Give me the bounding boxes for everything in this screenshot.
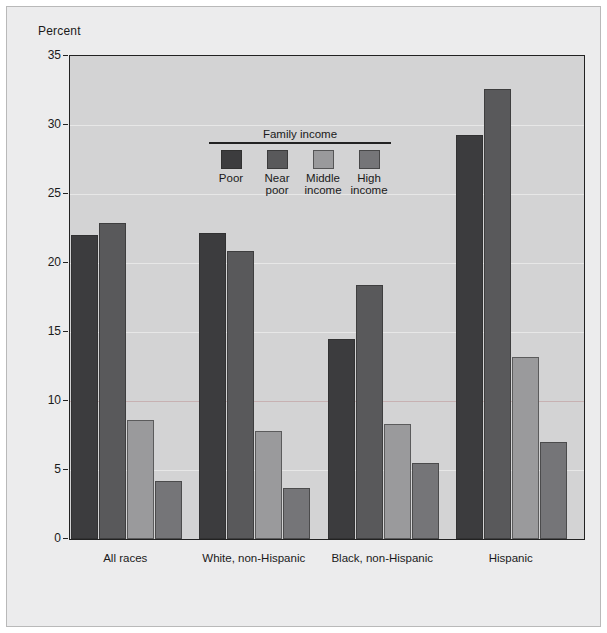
legend-label: Nearpoor (255, 172, 299, 197)
y-tick-mark (63, 193, 68, 194)
y-tick-mark (63, 331, 68, 332)
bar (127, 420, 154, 539)
bar (328, 339, 355, 539)
bar (384, 424, 411, 539)
x-tick-label: White, non-Hispanic (202, 552, 305, 564)
bar (412, 463, 439, 539)
bar (71, 235, 98, 539)
legend-swatch (359, 150, 380, 169)
y-tick-label: 0 (31, 531, 61, 545)
legend-swatch (221, 150, 242, 169)
y-tick-label: 35 (31, 48, 61, 62)
legend-item: Highincome (347, 150, 391, 197)
y-tick-mark (63, 400, 68, 401)
x-tick-label: Hispanic (489, 552, 533, 564)
legend-label: Poor (209, 172, 253, 185)
y-tick-label: 30 (31, 117, 61, 131)
bar (512, 357, 539, 539)
x-tick-label: All races (103, 552, 147, 564)
bar (255, 431, 282, 539)
legend-swatch (313, 150, 334, 169)
x-tick-label: Black, non-Hispanic (331, 552, 433, 564)
legend-items: PoorNearpoorMiddleincomeHighincome (209, 150, 391, 197)
plot-area: Family income PoorNearpoorMiddleincomeHi… (69, 55, 585, 540)
y-tick-mark (63, 55, 68, 56)
chart-figure: Percent Family income PoorNearpoorMiddle… (0, 0, 607, 633)
bar (227, 251, 254, 539)
y-tick-label: 15 (31, 324, 61, 338)
y-tick-label: 5 (31, 462, 61, 476)
legend-label: Middleincome (301, 172, 345, 197)
y-tick-mark (63, 538, 68, 539)
bar (99, 223, 126, 539)
y-tick-label: 25 (31, 186, 61, 200)
y-tick-label: 20 (31, 255, 61, 269)
y-axis-label: Percent (38, 24, 81, 38)
bar (283, 488, 310, 539)
legend-item: Middleincome (301, 150, 345, 197)
y-tick-mark (63, 469, 68, 470)
legend-label: Highincome (347, 172, 391, 197)
legend-title: Family income (209, 128, 391, 140)
bar (484, 89, 511, 539)
bar (456, 135, 483, 539)
legend-divider (209, 142, 391, 144)
bar (356, 285, 383, 539)
legend-item: Poor (209, 150, 253, 185)
bar (199, 233, 226, 539)
chart-legend: Family income PoorNearpoorMiddleincomeHi… (209, 128, 391, 197)
y-tick-mark (63, 262, 68, 263)
legend-item: Nearpoor (255, 150, 299, 197)
legend-swatch (267, 150, 288, 169)
bar (155, 481, 182, 539)
y-tick-label: 10 (31, 393, 61, 407)
y-tick-mark (63, 124, 68, 125)
bar (540, 442, 567, 539)
